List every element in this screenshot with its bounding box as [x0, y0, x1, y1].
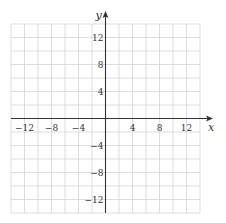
- x-tick-label: 12: [181, 123, 192, 133]
- y-tick-label: 4: [98, 87, 104, 97]
- y-tick-label: −8: [90, 168, 104, 178]
- x-tick-label: 8: [157, 123, 163, 133]
- x-axis-label: x: [208, 121, 215, 134]
- y-tick-label: 12: [92, 33, 103, 43]
- x-tick-label: 4: [130, 123, 136, 133]
- y-axis-label: y: [95, 9, 103, 22]
- y-tick-label: 8: [98, 60, 104, 70]
- y-tick-label: −12: [85, 195, 104, 205]
- x-tick-label: −4: [72, 123, 86, 133]
- x-tick-label: −12: [15, 123, 34, 133]
- x-tick-label: −8: [45, 123, 59, 133]
- x-tick-labels: −12−8−44812: [15, 123, 192, 133]
- coordinate-plane: −12−8−44812 1284−4−8−12 x y: [0, 0, 226, 223]
- y-tick-label: −4: [90, 141, 104, 151]
- axes: [11, 11, 213, 213]
